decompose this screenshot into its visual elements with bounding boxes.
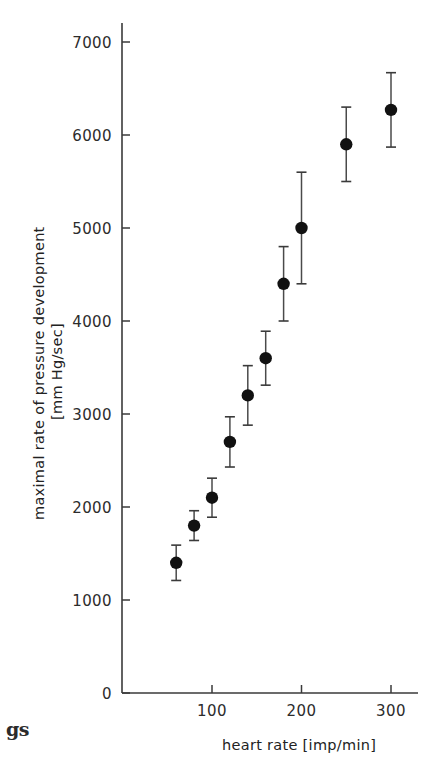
y-tick-label: 7000 (72, 34, 112, 52)
figure-canvas: 01000200030004000500060007000 100200300 … (0, 0, 424, 768)
x-axis-title: heart rate [imp/min] (222, 737, 376, 753)
data-point-marker (206, 492, 218, 504)
data-point-marker (260, 352, 272, 364)
x-tick-label: 100 (197, 702, 227, 720)
x-tick-label: 300 (376, 702, 406, 720)
error-bars-group (171, 73, 396, 581)
y-tick-label: 0 (102, 685, 112, 703)
data-point-marker (295, 222, 307, 234)
data-point-marker (170, 557, 182, 569)
data-markers-group (170, 104, 397, 569)
data-point-marker (188, 519, 200, 531)
scatter-plot: 01000200030004000500060007000 100200300 … (0, 0, 424, 768)
data-point-marker (224, 436, 236, 448)
y-axis-title-group: maximal rate of pressure development [mm… (31, 226, 65, 520)
y-tick-label: 1000 (72, 592, 112, 610)
x-tick-label: 200 (287, 702, 317, 720)
data-point-marker (277, 278, 289, 290)
y-axis-title-line1: maximal rate of pressure development (31, 226, 47, 520)
y-tick-label: 5000 (72, 220, 112, 238)
data-point-marker (340, 138, 352, 150)
y-axis-title-unit: [mm Hg/sec] (49, 323, 65, 420)
y-tick-label: 4000 (72, 313, 112, 331)
y-tick-label: 3000 (72, 406, 112, 424)
y-tick-label: 6000 (72, 127, 112, 145)
page-bleed-text: gs (6, 718, 29, 740)
y-tick-label: 2000 (72, 499, 112, 517)
data-point-marker (242, 389, 254, 401)
x-axis-ticks: 100200300 (197, 685, 406, 720)
data-point-marker (385, 104, 397, 116)
